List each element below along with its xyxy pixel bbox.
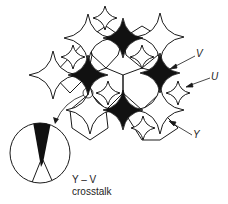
crosstalk-diagram [0, 0, 228, 204]
caption-line-1: Y – V [72, 174, 111, 186]
label-y: Y [193, 130, 200, 140]
star-small-5 [166, 81, 190, 105]
crosstalk-caption: Y – V crosstalk [72, 174, 111, 198]
star-small-6 [131, 116, 155, 140]
label-v: V [196, 49, 203, 59]
label-u: U [211, 72, 218, 82]
star-small-2 [61, 45, 85, 69]
star-small-1 [93, 6, 117, 30]
magnified-lens [10, 122, 70, 185]
star-small-4 [96, 81, 120, 105]
arrowhead-lens [53, 117, 59, 124]
star-black-1 [103, 18, 143, 58]
star-small-3 [130, 45, 154, 69]
caption-line-2: crosstalk [72, 186, 111, 198]
